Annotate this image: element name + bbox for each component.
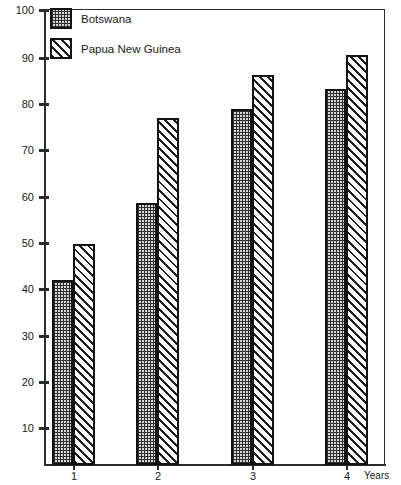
legend-item-botswana[interactable]: Botswana <box>50 8 181 29</box>
bar-papua-new-guinea-year-2[interactable] <box>157 118 179 465</box>
legend: Botswana Papua New Guinea <box>50 8 181 68</box>
x-tick-label: 1 <box>59 470 89 482</box>
grouped-bar-chart: 100 90 80 70 60 50 40 30 20 10 <box>0 0 401 485</box>
bars-layer <box>0 0 401 465</box>
bar-botswana-year-2[interactable] <box>136 203 157 465</box>
bar-botswana-year-3[interactable] <box>231 109 252 465</box>
x-tick-label: 4 <box>332 470 362 482</box>
bar-papua-new-guinea-year-1[interactable] <box>73 244 95 465</box>
legend-swatch-botswana <box>50 8 72 29</box>
x-tick-label: 3 <box>238 470 268 482</box>
legend-item-papua-new-guinea[interactable]: Papua New Guinea <box>50 38 181 59</box>
bar-botswana-year-4[interactable] <box>325 89 346 465</box>
x-axis-title: Years <box>364 470 389 481</box>
bar-papua-new-guinea-year-4[interactable] <box>346 55 368 465</box>
legend-label-papua-new-guinea: Papua New Guinea <box>81 43 181 55</box>
legend-swatch-papua-new-guinea <box>50 38 72 59</box>
legend-label-botswana: Botswana <box>81 13 132 25</box>
x-tick-label: 2 <box>143 470 173 482</box>
bar-papua-new-guinea-year-3[interactable] <box>252 75 274 465</box>
bar-botswana-year-1[interactable] <box>52 280 73 465</box>
